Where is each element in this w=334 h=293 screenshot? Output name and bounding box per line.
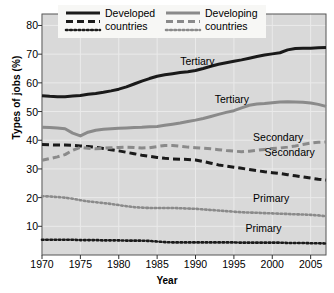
series-annotation: Tertiary [215,93,249,105]
x-tick-label: 1990 [176,258,216,270]
x-tick-label: 1995 [214,258,254,270]
x-tick-label: 1975 [60,258,100,270]
legend-label-developed-line1: Developed [105,8,155,20]
series-annotation: Primary [253,192,289,204]
x-tick-label: 1970 [22,258,62,270]
legend-label-developing-line1: Developing [205,8,258,20]
legend: DevelopedcountriesDevelopingcountries [58,5,266,38]
chart-figure: Types of jobs (%) Year 1020304050607080 … [0,0,334,293]
series-annotation: Tertiary [180,55,214,67]
series-annotation: Primary [245,222,281,234]
series-annotation: Secondary [253,131,303,143]
legend-label-developing-line2: countries [205,21,248,33]
x-tick-label: 2005 [291,258,331,270]
x-tick-label: 1980 [99,258,139,270]
x-tick-label: 1985 [137,258,177,270]
series-annotation: Secondary [265,146,315,158]
legend-label-developed-line2: countries [105,21,148,33]
x-tick-label: 2000 [252,258,292,270]
